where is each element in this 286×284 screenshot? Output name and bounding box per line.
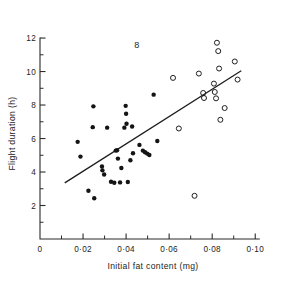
- data-point-open: [212, 89, 217, 94]
- data-point-open: [211, 81, 216, 86]
- data-point-filled: [147, 153, 151, 157]
- y-tick-label: 10: [26, 68, 36, 77]
- scatter-figure: 2468101200·020·040·060·080·10Initial fat…: [0, 0, 286, 284]
- data-point-filled: [91, 104, 95, 108]
- data-point-filled: [105, 125, 109, 129]
- x-tick-label: 0·10: [246, 245, 264, 254]
- data-point-filled: [100, 168, 104, 172]
- data-point-filled: [122, 125, 126, 129]
- data-point-filled: [130, 124, 134, 128]
- data-point-open: [202, 96, 207, 101]
- y-axis-title: Flight duration (h): [7, 97, 17, 171]
- x-tick-label: 0·08: [203, 245, 221, 254]
- y-tick-label: 12: [26, 34, 36, 43]
- y-tick-label: 6: [31, 135, 36, 144]
- series-filled-circles: [75, 92, 159, 200]
- data-point-filled: [102, 172, 106, 176]
- data-point-open: [176, 126, 181, 131]
- data-point-open: [192, 193, 197, 198]
- y-tick-label: 4: [31, 168, 36, 177]
- data-point-filled: [124, 122, 128, 126]
- data-point-filled: [100, 164, 104, 168]
- data-point-filled: [155, 139, 159, 143]
- data-point-filled: [126, 180, 130, 184]
- figure-number-label: 8: [134, 40, 139, 50]
- data-point-filled: [86, 189, 90, 193]
- data-point-filled: [116, 156, 120, 160]
- data-point-open: [214, 40, 219, 45]
- data-point-filled: [115, 148, 119, 152]
- x-tick-label: 0·06: [160, 245, 178, 254]
- data-point-open: [232, 59, 237, 64]
- data-point-filled: [128, 158, 132, 162]
- data-point-filled: [131, 151, 135, 155]
- y-tick-label: 2: [31, 202, 36, 211]
- data-point-open: [214, 96, 219, 101]
- x-tick-label: 0·04: [117, 245, 135, 254]
- x-axis-title: Initial fat content (mg): [107, 261, 198, 271]
- x-tick-label: 0·02: [74, 245, 92, 254]
- plot-canvas: 2468101200·020·040·060·080·10Initial fat…: [0, 0, 286, 284]
- data-point-open: [222, 106, 227, 111]
- data-point-open: [171, 75, 176, 80]
- data-point-filled: [118, 180, 122, 184]
- series-open-circles: [171, 40, 241, 198]
- data-point-filled: [112, 181, 116, 185]
- axis-spines: [40, 38, 259, 239]
- y-tick-label: 8: [31, 101, 36, 110]
- data-point-open: [216, 49, 221, 54]
- data-point-filled: [124, 112, 128, 116]
- data-point-filled: [137, 143, 141, 147]
- data-point-filled: [78, 154, 82, 158]
- x-tick-label: 0: [38, 245, 43, 254]
- data-point-filled: [92, 196, 96, 200]
- data-point-filled: [75, 140, 79, 144]
- data-point-open: [217, 66, 222, 71]
- data-point-filled: [91, 125, 95, 129]
- data-point-filled: [151, 92, 155, 96]
- data-point-open: [235, 77, 240, 82]
- data-point-filled: [119, 166, 123, 170]
- data-point-open: [196, 71, 201, 76]
- data-point-filled: [123, 104, 127, 108]
- data-point-open: [218, 117, 223, 122]
